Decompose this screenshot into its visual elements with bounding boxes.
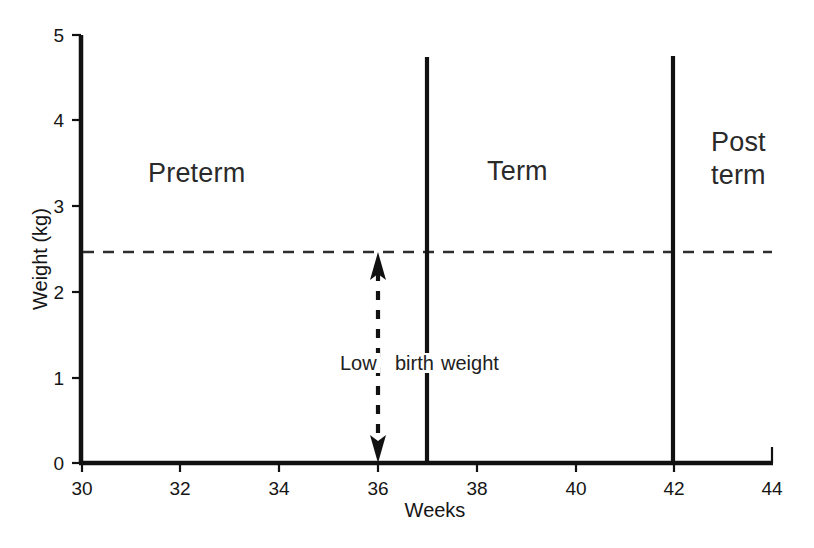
x-tick-label-34: 34	[254, 479, 304, 498]
lbw-arrow-head-down	[370, 435, 386, 463]
x-axis-title: Weeks	[385, 500, 485, 520]
x-tick-label-30: 30	[57, 479, 107, 498]
x-tick-label-38: 38	[452, 479, 502, 498]
annotation-post-term-line1: Post	[711, 127, 766, 159]
annotation-post-term-line2: term	[711, 160, 766, 192]
chart-plot-area	[0, 0, 814, 548]
gestational-age-weight-chart: 5 4 3 2 1 0 30 32 34 36 38 40 42 44 Week…	[0, 0, 814, 548]
annotation-term: Term	[487, 158, 548, 185]
x-tick-label-44: 44	[747, 479, 797, 498]
x-tick-label-36: 36	[353, 479, 403, 498]
annotation-lbw-word-low: Low	[337, 353, 380, 373]
annotation-preterm: Preterm	[148, 160, 245, 187]
annotation-lbw-word-birth: birth	[392, 353, 437, 373]
y-tick-label-0: 0	[38, 454, 64, 473]
y-axis-title: Weight (kg)	[30, 208, 50, 310]
x-tick-label-42: 42	[649, 479, 699, 498]
y-tick-label-1: 1	[38, 369, 64, 388]
y-tick-label-4: 4	[38, 111, 64, 130]
x-tick-label-40: 40	[551, 479, 601, 498]
y-tick-label-5: 5	[38, 26, 64, 45]
x-tick-label-32: 32	[155, 479, 205, 498]
annotation-lbw-word-weight: weight	[441, 353, 499, 373]
